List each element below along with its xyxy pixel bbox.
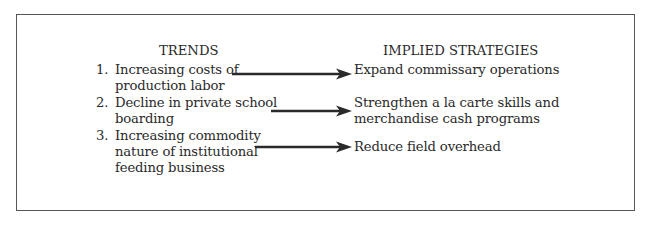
arrows-layer <box>0 0 657 225</box>
arrow-2-icon <box>271 106 352 117</box>
arrow-1-icon <box>232 69 352 80</box>
arrow-3-icon <box>255 142 352 153</box>
